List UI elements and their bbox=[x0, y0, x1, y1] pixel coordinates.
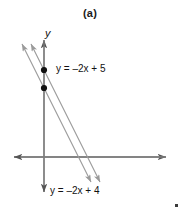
graph-canvas bbox=[0, 0, 180, 210]
line2-upper-arrow-segment bbox=[22, 44, 44, 88]
line1-lower-arrow-segment bbox=[44, 70, 100, 182]
corner-artifact-mark bbox=[175, 204, 178, 207]
line2-lower-arrow-segment bbox=[44, 88, 91, 182]
y-axis-label: y bbox=[45, 28, 51, 39]
equation-label-line2: y = –2x + 4 bbox=[50, 186, 99, 196]
point-y-intercept-4 bbox=[41, 85, 47, 91]
figure-panel: (a) bbox=[0, 0, 180, 210]
equation-label-line1: y = –2x + 5 bbox=[56, 64, 105, 74]
point-y-intercept-5 bbox=[41, 67, 47, 73]
